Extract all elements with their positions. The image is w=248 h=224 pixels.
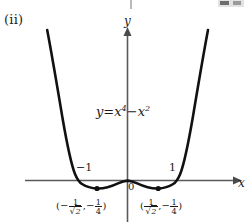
y-axis-arrowhead	[124, 27, 132, 36]
equation-label: y=x4−x2	[96, 104, 150, 119]
left-minimum-coordinate-label: (−1√2,−14)	[56, 198, 106, 215]
right-coord-open-paren: (	[140, 200, 144, 211]
left-coord-y-numerator: 1	[95, 198, 102, 206]
right-coord-y-denominator: 4	[170, 206, 177, 215]
minimum-point-left	[94, 186, 99, 191]
origin-label: 0	[128, 181, 134, 192]
right-coord-x-radicand: 2	[151, 205, 157, 216]
left-coord-x-denominator: √2	[69, 206, 82, 215]
x-axis-label: x	[238, 176, 245, 190]
equation-term2-exponent: 2	[145, 104, 150, 113]
equation-term1-base: x	[114, 104, 121, 119]
y-axis-label: y	[124, 14, 131, 28]
right-coord-x-fraction: 1√2	[144, 198, 157, 215]
left-coord-x-fraction: 1√2	[69, 198, 82, 215]
left-coord-close-paren: )	[103, 200, 107, 211]
figure-container: (ii) y=x4−x2 y x −1 1 0 (−1√2,−14) (1√2,…	[0, 0, 248, 224]
left-coord-y-denominator: 4	[95, 206, 102, 215]
right-coord-y-sign: −	[162, 200, 170, 211]
right-coord-y-numerator: 1	[170, 198, 177, 206]
right-minimum-coordinate-label: (1√2,−14)	[140, 198, 182, 215]
left-coord-y-sign: −	[86, 200, 94, 211]
equation-minus: −	[127, 104, 138, 119]
right-coord-x-denominator: √2	[144, 206, 157, 215]
right-coord-close-paren: )	[178, 200, 182, 211]
equation-equals: =	[103, 104, 114, 119]
equation-term2-base: x	[138, 104, 145, 119]
x-tick-label-negative-one: −1	[76, 161, 92, 174]
left-coord-y-fraction: 14	[95, 198, 102, 215]
minimum-point-right	[156, 186, 161, 191]
left-coord-x-radicand: 2	[75, 205, 81, 216]
x-tick-label-positive-one: 1	[169, 161, 176, 174]
right-coord-y-fraction: 14	[170, 198, 177, 215]
left-coord-x-sign: −	[60, 200, 68, 211]
